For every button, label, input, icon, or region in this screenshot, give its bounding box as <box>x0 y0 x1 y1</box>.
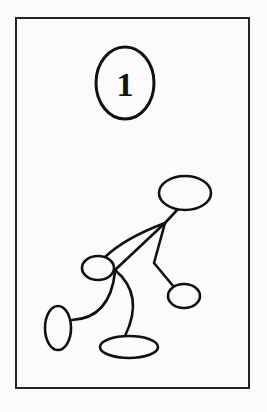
label-number: 1 <box>117 66 134 103</box>
node-right <box>168 284 200 308</box>
edge-junction-right <box>154 223 174 287</box>
node-top <box>159 176 211 210</box>
edge-middle-left-bottom-center <box>115 270 133 336</box>
edge-top-junction <box>165 209 178 223</box>
node-middle-left <box>82 256 114 280</box>
node-bottom-left <box>45 306 71 350</box>
figure-label: 1 <box>96 47 154 119</box>
figure-canvas: 1 <box>0 0 267 412</box>
node-bottom-center <box>100 336 158 358</box>
